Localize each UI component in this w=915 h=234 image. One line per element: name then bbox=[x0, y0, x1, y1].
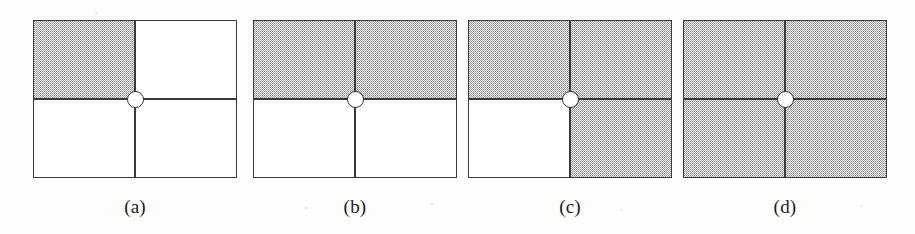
figure-panel-c bbox=[468, 20, 672, 178]
panel-a-quadrant-top-right bbox=[135, 21, 236, 99]
panel-b-quadrant-bottom-right bbox=[355, 99, 456, 177]
figure-panel-b bbox=[253, 20, 457, 178]
panel-b-quadrant-bottom-left bbox=[254, 99, 355, 177]
panel-c-quadrant-bottom-right bbox=[570, 99, 671, 177]
panel-d-quadrant-bottom-right bbox=[785, 99, 886, 177]
panel-c-label: (c) bbox=[468, 196, 672, 218]
figure-panel-a bbox=[33, 20, 237, 178]
panel-b-label: (b) bbox=[253, 196, 457, 218]
panel-d-center-node-icon bbox=[777, 91, 794, 108]
panel-b-frame bbox=[253, 20, 457, 178]
panel-c-frame bbox=[468, 20, 672, 178]
figure-panel-d bbox=[683, 20, 887, 178]
panel-d-quadrant-bottom-left bbox=[684, 99, 785, 177]
panel-b-center-node-icon bbox=[347, 91, 364, 108]
panel-d-quadrant-top-right bbox=[785, 21, 886, 99]
panel-b-quadrant-top-left bbox=[254, 21, 355, 99]
figure-root: (a) (b) bbox=[0, 0, 915, 234]
panel-a-quadrant-bottom-left bbox=[34, 99, 135, 177]
panel-c-center-node-icon bbox=[562, 91, 579, 108]
panel-a-quadrant-bottom-right bbox=[135, 99, 236, 177]
panel-d-frame bbox=[683, 20, 887, 178]
panel-a-center-node-icon bbox=[127, 91, 144, 108]
panel-b-quadrant-top-right bbox=[355, 21, 456, 99]
panel-a-frame bbox=[33, 20, 237, 178]
panel-c-quadrant-top-right bbox=[570, 21, 671, 99]
panel-d-label: (d) bbox=[683, 196, 887, 218]
panel-c-quadrant-bottom-left bbox=[469, 99, 570, 177]
panel-a-label: (a) bbox=[33, 196, 237, 218]
panel-d-quadrant-top-left bbox=[684, 21, 785, 99]
panel-c-quadrant-top-left bbox=[469, 21, 570, 99]
panel-group: (a) (b) bbox=[0, 0, 915, 234]
panel-a-quadrant-top-left bbox=[34, 21, 135, 99]
